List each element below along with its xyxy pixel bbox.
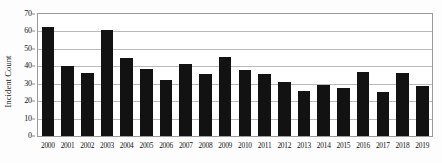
bar-slot-2016 xyxy=(353,14,373,136)
bar-2001 xyxy=(61,66,74,136)
bar-2010 xyxy=(239,70,252,136)
bar-slot-2019 xyxy=(412,14,432,136)
bar-2006 xyxy=(160,80,173,136)
y-tick-label-70: 70 xyxy=(24,10,32,18)
bar-slot-2004 xyxy=(117,14,137,136)
bar-slot-2005 xyxy=(137,14,157,136)
x-tick-label-2007: 2007 xyxy=(176,139,196,153)
bar-2004 xyxy=(120,58,133,136)
x-tick-label-2001: 2001 xyxy=(58,139,78,153)
y-tick-mark-70 xyxy=(32,14,35,15)
bar-2002 xyxy=(81,73,94,136)
bar-slot-2006 xyxy=(156,14,176,136)
y-tick-label-60: 60 xyxy=(24,27,32,35)
x-tick-label-2014: 2014 xyxy=(314,139,334,153)
x-tick-label-2011: 2011 xyxy=(255,139,275,153)
x-tick-label-2003: 2003 xyxy=(97,139,117,153)
x-tick-label-2005: 2005 xyxy=(137,139,157,153)
x-tick-label-2004: 2004 xyxy=(117,139,137,153)
bar-slot-2007 xyxy=(176,14,196,136)
y-tick-mark-0 xyxy=(32,136,35,137)
bar-2008 xyxy=(199,74,212,136)
x-tick-label-2008: 2008 xyxy=(196,139,216,153)
bar-2011 xyxy=(258,74,271,136)
y-tick-mark-50 xyxy=(32,48,35,49)
x-tick-label-2019: 2019 xyxy=(412,139,432,153)
bar-slot-2013 xyxy=(294,14,314,136)
bar-slot-2002 xyxy=(77,14,97,136)
y-tick-mark-40 xyxy=(32,66,35,67)
bar-2014 xyxy=(317,85,330,136)
bar-2013 xyxy=(298,91,311,136)
y-tick-mark-10 xyxy=(32,118,35,119)
bar-2009 xyxy=(219,57,232,136)
x-tick-label-2006: 2006 xyxy=(156,139,176,153)
bar-chart: Incident Count 010203040506070 200020012… xyxy=(0,0,442,163)
x-tick-label-2000: 2000 xyxy=(38,139,58,153)
bar-slot-2017 xyxy=(373,14,393,136)
bar-slot-2009 xyxy=(215,14,235,136)
bar-2016 xyxy=(357,72,370,136)
bar-slot-2012 xyxy=(274,14,294,136)
y-tick-label-50: 50 xyxy=(24,45,32,53)
bar-2000 xyxy=(42,27,55,136)
y-axis-tick-labels: 010203040506070 xyxy=(0,13,35,137)
bar-2015 xyxy=(337,88,350,136)
bar-slot-2000 xyxy=(38,14,58,136)
y-tick-label-30: 30 xyxy=(24,80,32,88)
y-tick-label-40: 40 xyxy=(24,62,32,70)
y-tick-mark-60 xyxy=(32,31,35,32)
bar-2017 xyxy=(377,92,390,136)
x-tick-label-2017: 2017 xyxy=(373,139,393,153)
x-tick-label-2015: 2015 xyxy=(334,139,354,153)
bar-slot-2015 xyxy=(334,14,354,136)
x-tick-label-2013: 2013 xyxy=(294,139,314,153)
y-tick-mark-20 xyxy=(32,101,35,102)
bar-2005 xyxy=(140,69,153,136)
x-tick-label-2002: 2002 xyxy=(77,139,97,153)
bar-2012 xyxy=(278,82,291,136)
bar-slot-2003 xyxy=(97,14,117,136)
bar-2007 xyxy=(179,64,192,136)
bars-container xyxy=(38,14,432,136)
x-tick-label-2012: 2012 xyxy=(274,139,294,153)
bar-slot-2011 xyxy=(255,14,275,136)
bar-2018 xyxy=(396,73,409,136)
bar-2019 xyxy=(416,86,429,136)
bar-slot-2001 xyxy=(58,14,78,136)
x-tick-label-2010: 2010 xyxy=(235,139,255,153)
x-tick-label-2016: 2016 xyxy=(353,139,373,153)
y-tick-label-10: 10 xyxy=(24,115,32,123)
bar-slot-2018 xyxy=(393,14,413,136)
bar-slot-2008 xyxy=(196,14,216,136)
x-axis-tick-labels: 2000200120022003200420052006200720082009… xyxy=(38,139,432,153)
y-tick-label-20: 20 xyxy=(24,97,32,105)
bar-2003 xyxy=(101,30,114,136)
bar-slot-2014 xyxy=(314,14,334,136)
x-tick-label-2009: 2009 xyxy=(215,139,235,153)
x-tick-label-2018: 2018 xyxy=(393,139,413,153)
y-tick-mark-30 xyxy=(32,83,35,84)
bar-slot-2010 xyxy=(235,14,255,136)
